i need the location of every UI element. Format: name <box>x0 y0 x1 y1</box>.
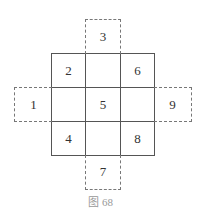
grid-cell-r1c2 <box>85 53 121 88</box>
outer-cell-left: 1 <box>14 87 52 122</box>
grid-cell-r1c1: 2 <box>51 53 86 88</box>
grid-cell-r3c2 <box>85 121 121 156</box>
outer-cell-bottom: 7 <box>85 155 121 190</box>
grid-cell-r1c3: 6 <box>120 53 155 88</box>
outer-cell-right: 9 <box>154 87 192 122</box>
grid-cell-r2c1 <box>51 87 86 122</box>
grid-cell-r3c1: 4 <box>51 121 86 156</box>
grid-cell-r2c3 <box>120 87 155 122</box>
grid-cell-r3c3: 8 <box>120 121 155 156</box>
grid-cell-r2c2: 5 <box>85 87 121 122</box>
figure-caption: 图 68 <box>0 193 201 209</box>
outer-cell-top: 3 <box>85 19 121 54</box>
